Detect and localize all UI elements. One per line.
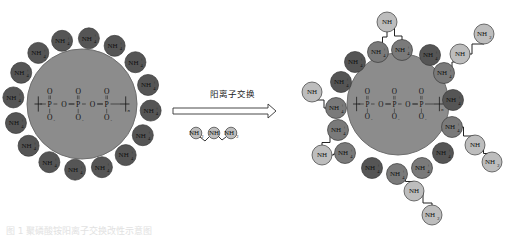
ammonium-ion: NH4+ (387, 164, 408, 185)
oxygen-atom: O (75, 87, 81, 96)
right-particle: NHNHNH2NHNHNHNH2NHNH2 NH4+NH4+NH4+NH4+NH… (302, 12, 502, 225)
ammonium-ion: NH4+ (138, 74, 159, 95)
phosphorus-atom: P (48, 100, 52, 109)
oxygen-atom: O (419, 88, 424, 96)
ion-label: NH (455, 50, 465, 58)
amine-group: NH2 (189, 127, 204, 139)
ammonium-ion: NH4+ (345, 52, 366, 73)
oxygen-atom: O (365, 113, 370, 121)
ion-label: NH (68, 166, 78, 174)
ion-superscript: + (148, 130, 151, 135)
ion-label: NH (423, 51, 433, 59)
phosphorus-atom: P (105, 100, 109, 109)
ion-subscript: 2 (201, 134, 203, 139)
ammonium-ion: NH4+ (442, 117, 463, 138)
ammonium-ion: NH4+ (132, 125, 153, 146)
ion-label: NH (189, 129, 199, 137)
ion-label: NH (437, 69, 447, 77)
phosphorus-atom: P (365, 101, 369, 109)
ion-label: NH (14, 69, 24, 77)
ion-label: NH (317, 151, 327, 159)
ion-superscript: + (67, 36, 70, 41)
ion-label: NH (409, 187, 419, 195)
ion-label: NH (42, 159, 52, 167)
ion-label: NH (224, 129, 234, 137)
imine-group: NH (404, 181, 424, 201)
ion-label: NH (477, 30, 487, 38)
oxygen-atom: O (392, 113, 397, 121)
ammonium-ion: NH4+ (5, 113, 26, 134)
ammonium-ion: NH4+ (115, 145, 136, 166)
ion-label: NH (209, 129, 219, 137)
ammonium-ion: NH4+ (3, 87, 24, 108)
ion-superscript: + (26, 68, 29, 73)
ion-superscript: + (94, 33, 97, 38)
ion-label: NH (22, 142, 32, 150)
amine-group: NH2 (422, 205, 442, 225)
ammonium-ion: NH4+ (362, 158, 383, 179)
bridging-oxygen: O (61, 100, 67, 109)
oxygen-atom: O (419, 113, 424, 121)
figure-caption: 图 1 聚磷酸铵阳离子交换改性示意图 (6, 224, 152, 237)
ion-label: NH (331, 126, 341, 134)
phosphorus-atom: P (76, 100, 80, 109)
amine-group: NH2 (482, 152, 502, 172)
ion-superscript: + (141, 57, 144, 62)
oxygen-atom: O (365, 88, 370, 96)
ion-label: NH (395, 46, 405, 54)
ion-label: NH (445, 123, 455, 131)
imine-group: NH (312, 145, 332, 165)
ion-label: NH (6, 94, 16, 102)
ion-label: NH (55, 37, 65, 45)
ion-label: NH (128, 59, 138, 67)
ion-label: NH (348, 58, 358, 66)
imine-group: NH (450, 44, 470, 64)
ammonium-ion: NH4+ (443, 90, 464, 111)
ammonium-ion: NH4+ (52, 30, 73, 51)
oxygen-atom: O (75, 113, 81, 122)
bridging-oxygen: O (90, 100, 96, 109)
ion-label: NH (334, 78, 344, 86)
ammonium-ion: NH4+ (65, 159, 86, 180)
oxygen-atom: O (47, 87, 53, 96)
ion-label: NH (365, 164, 375, 172)
ion-superscript: + (55, 157, 58, 162)
ion-label: NH (31, 49, 41, 57)
ammonium-ion: NH4+ (11, 62, 32, 83)
oxygen-atom: O (392, 88, 397, 96)
ammonium-ion: NH4+ (328, 120, 349, 141)
oxygen-atom: O (104, 113, 110, 122)
ammonium-ion: NH4+ (125, 52, 146, 73)
ion-label: NH (9, 119, 19, 127)
ion-label: NH (436, 149, 446, 157)
ion-subscript: 2 (437, 216, 439, 221)
ion-label: NH (338, 149, 348, 157)
ammonium-ion: NH4+ (420, 45, 441, 66)
ion-label: NH (329, 104, 339, 112)
ion-label: NH (382, 18, 392, 26)
bridging-oxygen: O (378, 101, 383, 109)
reagent-molecule: NH2NHNH2 (189, 127, 239, 141)
ammonium-ion: NH4+ (18, 135, 39, 156)
imine-group: NH (465, 135, 485, 155)
ammonium-ion: NH4+ (412, 158, 433, 179)
ion-label: NH (141, 81, 151, 89)
ammonium-ion: NH4+ (104, 35, 125, 56)
ammonium-ion: NH4+ (326, 98, 347, 119)
ammonium-ion: NH4+ (335, 143, 356, 164)
ammonium-ion: NH4+ (28, 42, 49, 63)
ion-superscript: + (156, 106, 159, 111)
ion-label: NH (485, 158, 495, 166)
phosphorus-atom: P (419, 101, 423, 109)
ion-label: NH (119, 151, 129, 159)
bridging-oxygen: O (405, 101, 410, 109)
ion-label: NH (425, 211, 435, 219)
ion-superscript: + (44, 48, 47, 53)
amine-group: NH2 (224, 127, 239, 139)
ion-superscript: + (34, 141, 37, 146)
ammonium-ion: NH4+ (140, 100, 161, 121)
ammonium-ion: NH4+ (392, 40, 413, 61)
ammonium-ion: NH4+ (91, 157, 112, 178)
ion-label: NH (371, 48, 381, 56)
imine-group: NH (377, 12, 397, 32)
